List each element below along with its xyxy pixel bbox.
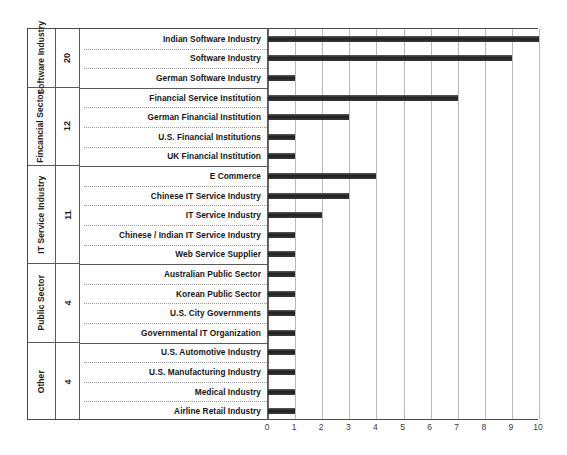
category-label: IT Service Industry [80, 205, 267, 225]
category-label: E Commerce [80, 166, 267, 186]
category-label: Australian Public Sector [80, 264, 267, 284]
group-block: Fincancial Sector [28, 88, 55, 166]
group-count-block: 4 [56, 343, 79, 421]
x-tick-label: 2 [319, 422, 324, 432]
category-label: U.S. Manufacturing Industry [80, 362, 267, 382]
group-name-label: Public Sector [37, 275, 47, 331]
bar [268, 349, 295, 355]
group-name-column: Software IndustryFincancial SectorIT Ser… [28, 29, 56, 419]
bar [268, 153, 295, 159]
bar [268, 114, 349, 120]
group-count-block: 11 [56, 166, 79, 264]
category-label: UK Financial Institution [80, 147, 267, 167]
row-separator [84, 127, 267, 128]
bar [268, 232, 295, 238]
bar [268, 369, 295, 375]
bar [268, 75, 295, 81]
category-label: Financial Service Institution [80, 88, 267, 108]
category-label: Software Industry [80, 49, 267, 69]
group-separator [80, 166, 267, 167]
row-separator [84, 49, 267, 50]
bar [268, 310, 295, 316]
group-name-label: Software Industry [37, 21, 47, 95]
row-separator [84, 147, 267, 148]
category-label: German Financial Institution [80, 107, 267, 127]
row-separator [84, 205, 267, 206]
group-count-block: 12 [56, 88, 79, 166]
row-separator [84, 186, 267, 187]
plot-inner [268, 29, 538, 419]
group-count-value: 4 [62, 379, 72, 384]
group-name-label: Fincancial Sector [37, 90, 47, 162]
group-count-block: 4 [56, 264, 79, 342]
row-separator [84, 225, 267, 226]
x-tick-label: 6 [427, 422, 432, 432]
category-label: Chinese / Indian IT Service Industry [80, 225, 267, 245]
bar [268, 95, 458, 101]
x-tick-label: 8 [481, 422, 486, 432]
group-name-label: Other [37, 370, 47, 393]
row-separator [84, 323, 267, 324]
category-label: U.S. Financial Institutions [80, 127, 267, 147]
gridline [404, 29, 405, 419]
bar [268, 291, 295, 297]
group-count-value: 12 [62, 121, 72, 131]
bar [268, 389, 295, 395]
group-count-value: 11 [62, 210, 72, 220]
bar [268, 408, 295, 414]
category-label-column: Indian Software IndustrySoftware Industr… [80, 29, 268, 419]
x-axis: 012345678910 [267, 420, 538, 444]
group-block: IT Service Industry [28, 166, 55, 264]
x-tick-label: 5 [400, 422, 405, 432]
category-label: Chinese IT Service Industry [80, 186, 267, 206]
x-tick-label: 1 [292, 422, 297, 432]
group-count-column: 20121144 [56, 29, 80, 419]
gridline [376, 29, 377, 419]
x-tick-label: 10 [533, 422, 542, 432]
category-label: Medical Industry [80, 382, 267, 402]
group-name-label: IT Service Industry [37, 176, 47, 254]
group-block: Software Industry [28, 29, 55, 88]
row-separator [84, 245, 267, 246]
category-label: German Software Industry [80, 68, 267, 88]
x-tick-label: 3 [346, 422, 351, 432]
group-block: Other [28, 343, 55, 421]
x-tick-label: 7 [454, 422, 459, 432]
bar [268, 330, 295, 336]
bar [268, 271, 295, 277]
gridline [349, 29, 350, 419]
group-count-value: 4 [62, 300, 72, 305]
gridline [268, 29, 269, 419]
row-separator [84, 303, 267, 304]
category-label: Governmental IT Organization [80, 323, 267, 343]
group-block: Public Sector [28, 264, 55, 342]
x-tick-label: 4 [373, 422, 378, 432]
category-label: Korean Public Sector [80, 284, 267, 304]
bar [268, 55, 512, 61]
bar [268, 193, 349, 199]
chart-frame: Software IndustryFincancial SectorIT Ser… [27, 28, 538, 420]
row-separator [84, 284, 267, 285]
x-tick-label: 9 [509, 422, 514, 432]
plot-area [268, 29, 538, 419]
row-separator [84, 401, 267, 402]
category-label: Web Service Supplier [80, 245, 267, 265]
group-separator [80, 264, 267, 265]
row-separator [84, 68, 267, 69]
x-tick-label: 0 [265, 422, 270, 432]
gridline [539, 29, 540, 419]
gridline [295, 29, 296, 419]
category-label: Airline Retail Industry [80, 401, 267, 421]
bar-chart: Software IndustryFincancial SectorIT Ser… [0, 0, 567, 455]
group-separator [80, 88, 267, 89]
bar [268, 36, 539, 42]
row-separator [84, 107, 267, 108]
bar [268, 173, 376, 179]
bar [268, 134, 295, 140]
gridline [512, 29, 513, 419]
bar [268, 212, 322, 218]
bar [268, 251, 295, 257]
gridline [485, 29, 486, 419]
category-label: U.S. Automotive Industry [80, 343, 267, 363]
group-count-block: 20 [56, 29, 79, 88]
